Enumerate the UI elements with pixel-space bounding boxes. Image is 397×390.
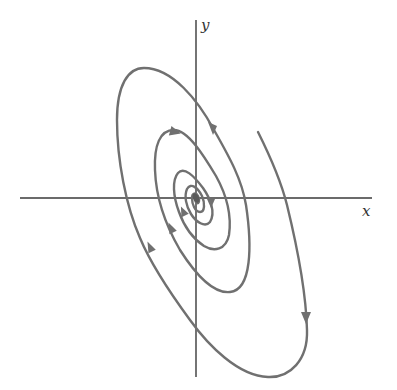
y-axis-label: y: [201, 16, 209, 34]
arrow-icon: [301, 312, 311, 324]
spiral-trajectory: [117, 68, 307, 377]
phase-portrait: [0, 0, 397, 390]
arrow-icon: [207, 199, 215, 208]
x-axis-label: x: [362, 202, 370, 220]
